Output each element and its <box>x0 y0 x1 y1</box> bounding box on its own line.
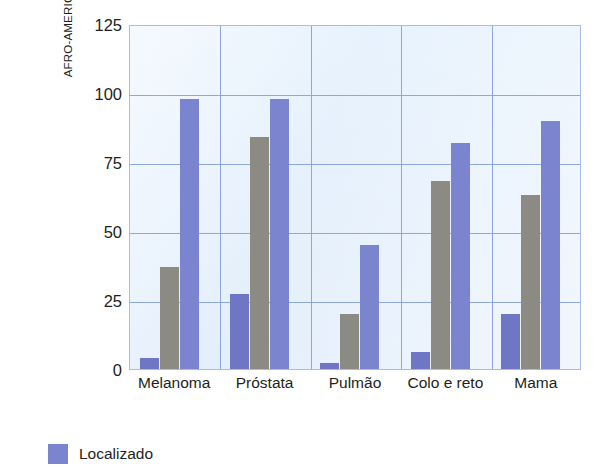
bar <box>541 121 560 369</box>
x-axis-tick-label: Pulmão <box>310 373 400 393</box>
bar <box>270 99 289 369</box>
bar <box>140 358 159 369</box>
bar-group <box>130 26 220 369</box>
x-axis-tick-label: Melanoma <box>129 373 219 393</box>
bar <box>501 314 520 369</box>
x-axis-tick-labels: MelanomaPróstataPulmãoColo e retoMama <box>129 373 581 399</box>
y-axis-tick-label: 125 <box>82 17 122 34</box>
y-axis-title-line-2: AFRO-AMERICANOS (POR 100 MIL) <box>60 0 77 77</box>
bars-layer <box>130 26 580 369</box>
y-axis-tick-label: 25 <box>82 293 122 310</box>
bar-chart-figure: TAXA DE SOBREVIVÊNCIA DE AFRO-AMERICANOS… <box>0 0 601 471</box>
bar-group <box>401 26 491 369</box>
bar <box>521 195 540 369</box>
legend-swatch-localizado <box>48 444 68 464</box>
y-axis-tick-labels: 0255075100125 <box>82 25 122 370</box>
bar <box>431 181 450 369</box>
bar <box>250 137 269 369</box>
bar <box>360 245 379 369</box>
bar <box>340 314 359 369</box>
y-axis-tick-label: 0 <box>82 362 122 379</box>
legend: Localizado <box>48 444 153 464</box>
bar <box>180 99 199 369</box>
bar-group <box>492 26 582 369</box>
y-axis-tick-label: 50 <box>82 224 122 241</box>
bar-group <box>311 26 401 369</box>
x-axis-tick-label: Colo e reto <box>400 373 490 393</box>
legend-label-localizado: Localizado <box>79 444 153 464</box>
bar-group <box>220 26 310 369</box>
bar <box>451 143 470 369</box>
y-axis-tick-label: 100 <box>82 86 122 103</box>
bar <box>160 267 179 369</box>
bar <box>320 363 339 369</box>
bar <box>411 352 430 369</box>
y-axis-tick-label: 75 <box>82 155 122 172</box>
x-axis-tick-label: Próstata <box>219 373 309 393</box>
plot-area <box>129 25 581 370</box>
bar <box>230 294 249 369</box>
x-axis-tick-label: Mama <box>491 373 581 393</box>
